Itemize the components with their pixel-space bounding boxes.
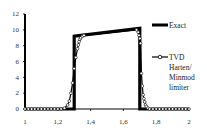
data-point-open-circle-icon: [74, 56, 77, 59]
data-point-open-circle-icon: [155, 108, 158, 111]
y-tick-label: 8: [16, 42, 20, 50]
legend-item-exact: Exact: [152, 21, 187, 30]
legend-label-tvd-line-1: TVD: [169, 53, 185, 62]
plot-area: [24, 28, 191, 110]
data-point-open-circle-icon: [27, 108, 30, 111]
legend-swatch-open-circle-icon: [158, 55, 162, 59]
data-point-open-circle-icon: [142, 93, 145, 96]
legend-item-tvd: TVD Harten/ Minmod limiter: [152, 53, 195, 92]
data-point-open-circle-icon: [83, 34, 86, 37]
x-tick-label: 1: [23, 118, 27, 126]
y-axis-ticks: 024681012: [12, 10, 25, 113]
data-point-open-circle-icon: [168, 108, 171, 111]
data-point-open-circle-icon: [158, 108, 161, 111]
data-point-open-circle-icon: [53, 108, 56, 111]
data-point-open-circle-icon: [43, 108, 46, 111]
data-point-open-circle-icon: [70, 92, 73, 95]
data-point-open-circle-icon: [184, 108, 187, 111]
y-tick-label: 10: [12, 26, 20, 34]
chart: 024681012 11,21,41,61,82 Exact TVD Harte…: [0, 0, 207, 133]
legend-label-tvd-line-3: Minmod: [169, 73, 195, 82]
legend: Exact TVD Harten/ Minmod limiter: [152, 21, 195, 92]
data-point-open-circle-icon: [178, 108, 181, 111]
y-tick-label: 2: [16, 89, 20, 97]
y-tick-label: 0: [16, 105, 20, 113]
data-point-open-circle-icon: [77, 44, 80, 47]
data-point-open-circle-icon: [175, 108, 178, 111]
data-point-open-circle-icon: [138, 34, 141, 37]
x-axis-ticks: 11,21,41,61,82: [23, 109, 191, 126]
data-point-open-circle-icon: [143, 101, 146, 104]
data-point-open-circle-icon: [66, 104, 69, 107]
data-point-open-circle-icon: [60, 108, 63, 111]
y-tick-label: 12: [12, 10, 20, 18]
legend-label-exact: Exact: [169, 21, 187, 30]
legend-label-tvd-line-4: limiter: [169, 83, 189, 92]
data-point-open-circle-icon: [165, 108, 168, 111]
data-point-open-circle-icon: [148, 108, 151, 111]
data-point-open-circle-icon: [140, 72, 143, 75]
data-point-open-circle-icon: [50, 108, 53, 111]
x-tick-label: 1,6: [119, 118, 128, 126]
data-point-open-circle-icon: [73, 67, 76, 70]
data-point-open-circle-icon: [47, 108, 50, 111]
data-point-open-circle-icon: [63, 107, 66, 110]
data-point-open-circle-icon: [181, 108, 184, 111]
x-tick-label: 1,2: [53, 118, 62, 126]
data-point-open-circle-icon: [71, 82, 74, 85]
data-point-open-circle-icon: [188, 108, 191, 111]
x-tick-label: 2: [187, 118, 191, 126]
x-tick-label: 1,8: [152, 118, 161, 126]
data-point-open-circle-icon: [139, 42, 142, 45]
data-point-open-circle-icon: [152, 108, 155, 111]
series-exact-line: [25, 28, 189, 109]
data-point-open-circle-icon: [68, 100, 71, 103]
data-point-open-circle-icon: [56, 108, 59, 111]
y-tick-label: 4: [16, 74, 20, 82]
data-point-open-circle-icon: [171, 108, 174, 111]
data-point-open-circle-icon: [33, 108, 36, 111]
data-point-open-circle-icon: [24, 108, 27, 111]
data-point-open-circle-icon: [161, 108, 164, 111]
x-tick-label: 1,4: [86, 118, 95, 126]
data-point-open-circle-icon: [143, 97, 146, 100]
data-point-open-circle-icon: [30, 108, 33, 111]
legend-label-tvd-line-2: Harten/: [169, 63, 192, 72]
data-point-open-circle-icon: [138, 37, 141, 40]
data-point-open-circle-icon: [40, 108, 43, 111]
data-point-open-circle-icon: [141, 85, 144, 88]
data-point-open-circle-icon: [76, 47, 79, 50]
data-point-open-circle-icon: [37, 108, 40, 111]
data-point-open-circle-icon: [137, 31, 140, 34]
series-tvd-line: [25, 30, 189, 109]
y-tick-label: 6: [16, 58, 20, 66]
